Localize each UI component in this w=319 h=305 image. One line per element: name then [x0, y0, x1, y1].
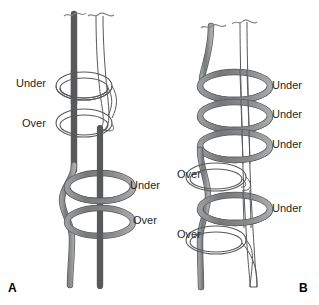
label-a-under-1: Under — [16, 77, 46, 89]
label-b-under-3: Under — [272, 138, 302, 150]
figure-background — [0, 0, 319, 305]
panel-letter-a: A — [8, 281, 17, 295]
label-b-under-2: Under — [272, 108, 302, 120]
label-b-under-1: Under — [272, 79, 302, 91]
label-a-over-1: Over — [22, 117, 46, 129]
label-b-over-2: Over — [177, 228, 201, 240]
label-b-over-1: Over — [177, 168, 201, 180]
label-a-over-2: Over — [133, 214, 157, 226]
panel-letter-b: B — [299, 281, 308, 295]
label-a-under-2: Under — [130, 179, 160, 191]
label-b-under-4: Under — [272, 202, 302, 214]
knot-diagram-svg — [0, 0, 319, 305]
